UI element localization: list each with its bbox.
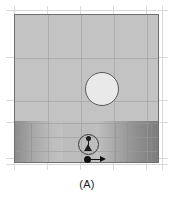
central-circular-hole <box>85 72 119 106</box>
boundary-support-symbol <box>78 134 99 155</box>
left-gradient-contour <box>15 121 63 162</box>
construction-grid-hline <box>6 10 168 11</box>
mesh-hline <box>15 101 158 102</box>
x-axis-arrow-icon <box>100 156 106 162</box>
figure-panel: (A) <box>0 0 174 201</box>
construction-grid-vline <box>162 6 163 170</box>
origin-axis-marker <box>84 155 108 164</box>
support-triangle-icon <box>84 144 92 151</box>
mesh-hline <box>15 58 158 59</box>
construction-grid-hline <box>6 164 168 165</box>
figure-caption: (A) <box>0 178 174 190</box>
